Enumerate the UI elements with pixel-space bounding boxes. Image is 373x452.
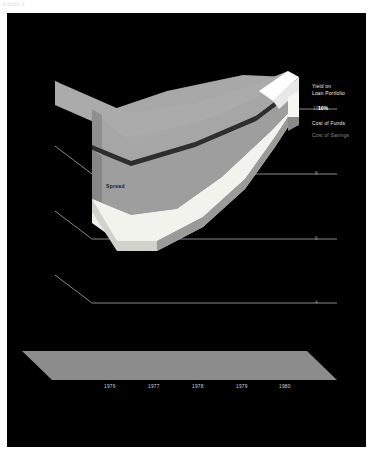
legend-cost-of-funds: Cost of Funds [312,121,345,127]
gridline-4 [55,275,337,303]
axis-tick-6: 6 [315,236,318,241]
legend-yield-line1: Yield on [312,84,331,90]
chart-figure-plate: 10% 8 6 4 Yield on Loan Portfolio 10% Co… [7,13,366,447]
band-spread-left-edge [92,150,102,205]
caption-text: Exhibit 1 [3,1,25,7]
legend-yield-line2: Loan Portfolio [312,91,345,97]
x-tick-1979: 1979 [236,384,248,389]
annotation-spread: Spread [106,183,125,189]
x-tick-1978: 1978 [192,384,204,389]
chart-svg [7,13,366,447]
caption-strip: Exhibit 1 [0,0,373,13]
x-tick-1980: 1980 [279,384,291,389]
x-tick-1977: 1977 [148,384,160,389]
axis-tick-8: 8 [315,171,318,176]
legend-cost-of-savings: Cost of Savings [312,133,349,139]
legend-percent: 10% [318,106,328,111]
floor-plane [22,351,337,380]
x-tick-1976: 1976 [104,384,116,389]
axis-tick-4: 4 [315,300,318,305]
